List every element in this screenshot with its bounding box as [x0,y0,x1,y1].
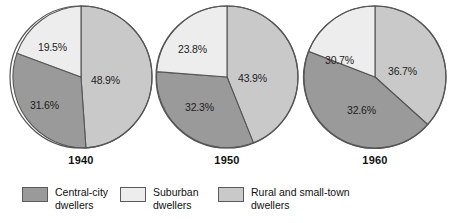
pie-1940-year: 1940 [6,154,156,166]
pie-1960-year: 1960 [300,154,450,166]
legend-swatch-rural-icon [218,187,244,202]
pie-chart-1960: 36.7% 32.6% 30.7% 1960 [300,4,450,180]
pie-1960-label-rural: 36.7% [388,65,417,77]
legend-item-suburban: Suburban dwellers [120,186,199,211]
pie-chart-1940: 48.9% 31.6% 19.5% 1940 [6,4,156,180]
pie-1940-svg [8,4,154,150]
pie-1950-label-rural: 43.9% [238,72,267,84]
pie-1960-svg [302,4,448,150]
pie-chart-figure: 48.9% 31.6% 19.5% 1940 43.9% 32.3% 23.8 [0,0,464,223]
pie-1940-graphic [8,4,154,150]
legend-label-suburban-line2: dwellers [153,199,199,212]
pie-1950-year: 1950 [152,154,302,166]
legend-label-rural: Rural and small-town dwellers [251,186,350,211]
pie-1940-label-central-city: 31.6% [30,99,59,111]
pie-chart-row: 48.9% 31.6% 19.5% 1940 43.9% 32.3% 23.8 [0,0,464,180]
legend-item-central-city: Central-city dwellers [22,186,108,211]
pie-1950-graphic [154,4,300,150]
legend-swatch-suburban-icon [120,187,146,202]
legend-label-suburban: Suburban dwellers [153,186,199,211]
pie-1950-label-suburban: 23.8% [178,43,207,55]
pie-1960-label-suburban: 30.7% [325,54,354,66]
legend-item-rural: Rural and small-town dwellers [218,186,350,211]
chart-legend: Central-city dwellers Suburban dwellers … [0,184,464,223]
pie-1950-svg [154,4,300,150]
pie-1950-slice-suburban [157,6,227,77]
pie-1960-graphic [302,4,448,150]
legend-label-central-city-line2: dwellers [55,199,108,212]
legend-label-central-city-line1: Central-city [55,186,108,198]
legend-label-central-city: Central-city dwellers [55,186,108,211]
pie-1960-label-central-city: 32.6% [347,104,376,116]
pie-1940-label-suburban: 19.5% [38,41,67,53]
pie-chart-1950: 43.9% 32.3% 23.8% 1950 [152,4,302,180]
legend-swatch-central-city-icon [22,187,48,202]
pie-1940-label-rural: 48.9% [91,74,120,86]
pie-1950-label-central-city: 32.3% [185,101,214,113]
legend-label-rural-line1: Rural and small-town [251,186,350,198]
legend-label-rural-line2: dwellers [251,199,350,212]
legend-label-suburban-line1: Suburban [153,186,199,198]
